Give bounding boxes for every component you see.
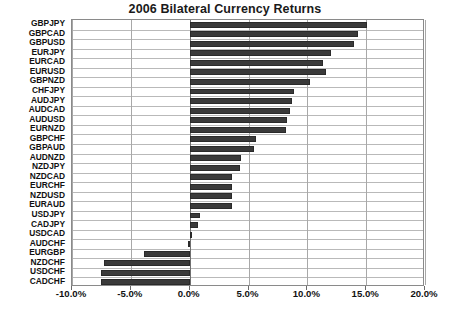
y-axis-category-label: GBPAUD bbox=[29, 143, 65, 152]
x-axis-tick-label: -5.0% bbox=[117, 288, 142, 300]
x-axis-tick-label: -10.0% bbox=[56, 288, 86, 300]
bar bbox=[188, 241, 190, 247]
bar bbox=[190, 174, 232, 180]
bar bbox=[190, 203, 232, 209]
y-axis-category-label: AUDCAD bbox=[29, 105, 65, 114]
x-axis-tick-label: 5.0% bbox=[237, 288, 259, 300]
bar bbox=[190, 22, 368, 28]
bar bbox=[190, 41, 355, 47]
currency-returns-chart: 2006 Bilateral Currency Returns GBPJPYGB… bbox=[0, 0, 450, 317]
x-axis-tick-label: 15.0% bbox=[352, 288, 379, 300]
y-axis-category-label: NZDJPY bbox=[32, 162, 65, 171]
bar bbox=[190, 165, 241, 171]
bar bbox=[190, 184, 232, 190]
bar bbox=[190, 146, 255, 152]
bar bbox=[190, 222, 198, 228]
bar bbox=[190, 98, 292, 104]
y-axis-category-label: CADCHF bbox=[30, 277, 65, 286]
y-axis-category-label: USDCAD bbox=[29, 229, 65, 238]
bar bbox=[190, 213, 201, 219]
x-axis-tick-label: 0.0% bbox=[178, 288, 200, 300]
bar bbox=[190, 69, 326, 75]
chart-title: 2006 Bilateral Currency Returns bbox=[0, 2, 450, 17]
bar bbox=[101, 270, 189, 276]
plot-area bbox=[71, 19, 424, 286]
bar bbox=[190, 127, 286, 133]
y-axis-category-label: USDCHF bbox=[30, 267, 65, 276]
bar bbox=[190, 60, 323, 66]
y-axis-category-labels: GBPJPYGBPCADGBPUSDEURJPYEURCADEURUSDGBPN… bbox=[0, 19, 68, 286]
bar bbox=[190, 117, 288, 123]
bar bbox=[101, 279, 189, 285]
bar bbox=[144, 251, 190, 257]
y-axis-category-label: CHFJPY bbox=[32, 86, 65, 95]
bar bbox=[190, 232, 192, 238]
y-axis-category-label: EURGBP bbox=[29, 248, 65, 257]
gridline-vertical bbox=[425, 20, 426, 285]
y-axis-category-label: EURNZD bbox=[30, 124, 65, 133]
bar bbox=[104, 260, 190, 266]
y-axis-category-label: GBPJPY bbox=[31, 19, 65, 28]
x-axis-tick-labels: -10.0%-5.0%0.0%5.0%10.0%15.0%20.0% bbox=[0, 288, 450, 306]
bar bbox=[190, 31, 358, 37]
bar bbox=[190, 79, 310, 85]
y-axis-category-label: USDJPY bbox=[31, 210, 65, 219]
x-axis-tick-label: 10.0% bbox=[293, 288, 320, 300]
bar bbox=[190, 136, 256, 142]
y-axis-category-label: GBPUSD bbox=[29, 38, 65, 47]
x-axis-tick-label: 20.0% bbox=[410, 288, 437, 300]
bar bbox=[190, 193, 232, 199]
bar bbox=[190, 155, 242, 161]
bar bbox=[190, 50, 331, 56]
bar bbox=[190, 108, 290, 114]
bar bbox=[190, 89, 295, 95]
bars-layer bbox=[72, 20, 423, 285]
